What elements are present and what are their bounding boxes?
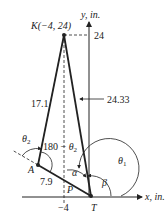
- beta-arc: [88, 176, 111, 196]
- label-alpha: α: [72, 167, 78, 178]
- label-x-tick-minus4: −4: [58, 202, 69, 213]
- label-y-axis: y, in.: [80, 9, 100, 20]
- label-length-AT: 7.9: [40, 176, 53, 187]
- label-length-KT: 24.33: [107, 94, 130, 105]
- label-theta1: θ1: [118, 155, 127, 168]
- label-inner-angle: 180 − θ2: [43, 141, 78, 154]
- label-length-KA: 17.1: [31, 98, 49, 109]
- label-beta: β: [101, 177, 107, 188]
- label-P: P: [66, 184, 73, 195]
- label-x-axis: x, in.: [144, 191, 165, 202]
- theta2-arc: [22, 148, 41, 156]
- point-K: [62, 33, 66, 37]
- label-y-tick-24: 24: [94, 30, 104, 41]
- point-T: [89, 194, 93, 198]
- label-theta2: θ2: [22, 133, 31, 146]
- label-T: T: [91, 202, 98, 213]
- mechanism-diagram: K(−4, 24) y, in. 24 17.1 24.33 θ2 180 − …: [0, 0, 166, 221]
- link-KT: [64, 35, 91, 196]
- point-A: [36, 163, 40, 167]
- label-A: A: [27, 164, 35, 175]
- label-K: K(−4, 24): [30, 20, 72, 32]
